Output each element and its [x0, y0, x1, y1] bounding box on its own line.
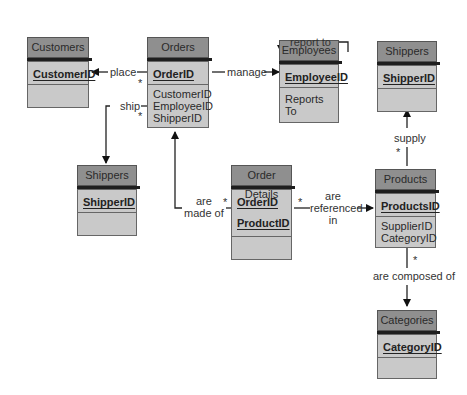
fields-section — [231, 237, 292, 260]
fields-section: SupplierID CategoryID — [375, 217, 436, 248]
primary-key: CustomerID — [33, 65, 83, 83]
primary-key: OrderID — [153, 65, 203, 83]
table-orders[interactable]: Orders OrderID CustomerID EmployeeID Shi… — [147, 37, 209, 128]
field: EmployeeID — [153, 100, 203, 112]
field: CustomerID — [153, 88, 203, 100]
primary-key: EmployeeID — [285, 68, 333, 86]
table-title: Categories — [377, 310, 437, 331]
field: CategoryID — [381, 232, 430, 244]
table-title: Orders — [147, 37, 209, 58]
primary-key: ShipperID — [83, 193, 131, 211]
relationship-label-supply: supply — [394, 132, 426, 144]
many-marker: * — [138, 110, 142, 122]
relationship-label-are-referenced-in: are referenced in — [310, 190, 356, 226]
table-shippers[interactable]: Shippers ShipperID — [377, 41, 437, 112]
fields-section — [27, 85, 89, 108]
table-products[interactable]: Products ProductsID SupplierID CategoryI… — [375, 169, 436, 248]
table-title: Shippers — [377, 41, 437, 62]
fields-section — [77, 213, 137, 236]
primary-key: ProductID — [237, 214, 286, 232]
field: ShipperID — [153, 112, 203, 124]
many-marker: * — [298, 196, 302, 208]
table-categories[interactable]: Categories CategoryID — [377, 310, 437, 379]
many-marker: * — [138, 77, 142, 89]
table-title: Customers — [27, 37, 89, 58]
many-marker: * — [396, 146, 400, 158]
many-marker: * — [223, 196, 227, 208]
relationship-label-report-to: report to — [290, 36, 331, 48]
table-order-details[interactable]: Order Details OrderID ProductID — [231, 165, 292, 260]
primary-key-section: OrderID — [147, 61, 209, 85]
fields-section: CustomerID EmployeeID ShipperID — [147, 85, 209, 128]
field: Reports To — [285, 93, 333, 117]
table-shippers[interactable]: Shippers ShipperID — [77, 165, 137, 236]
primary-key-section: CategoryID — [377, 334, 437, 358]
many-marker: * — [413, 254, 417, 266]
primary-key: ShipperID — [383, 69, 431, 87]
table-title: Products — [375, 169, 436, 190]
fields-section — [377, 89, 437, 112]
primary-key-section: EmployeeID — [279, 64, 339, 88]
table-employees[interactable]: Employees EmployeeID Reports To — [279, 40, 339, 123]
field: SupplierID — [381, 220, 430, 232]
table-title: Shippers — [77, 165, 137, 186]
relationship-label-are-composed-of: are composed of — [373, 270, 455, 282]
relationship-label-are-made-of: are made of — [184, 195, 224, 219]
relationship-label-place: place — [110, 66, 136, 78]
primary-key: CategoryID — [383, 338, 431, 356]
fields-section: Reports To — [279, 88, 339, 123]
primary-key-section: ShipperID — [77, 189, 137, 213]
primary-key-section: CustomerID — [27, 61, 89, 85]
table-customers[interactable]: Customers CustomerID — [27, 37, 89, 108]
table-title: Order Details — [231, 165, 292, 186]
primary-key-section: ShipperID — [377, 65, 437, 89]
relationship-label-manage: manage — [227, 66, 267, 78]
fields-section — [377, 358, 437, 379]
primary-key-section: ProductsID — [375, 193, 436, 217]
primary-key: ProductsID — [381, 197, 430, 215]
